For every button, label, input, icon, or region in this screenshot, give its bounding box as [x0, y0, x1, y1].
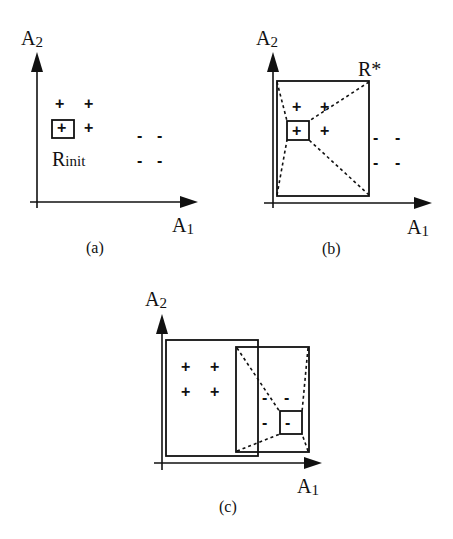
- x-axis-label-b: A1: [407, 216, 429, 239]
- figure: A2 A1 + + + + - - - - Rinit (a) A2 A1 R*…: [0, 0, 453, 539]
- y-axis-arrow-icon: [31, 52, 43, 72]
- expansion-line: [277, 140, 287, 195]
- negative-point: -: [285, 414, 290, 431]
- y-axis-arrow-icon: [267, 52, 279, 72]
- negative-point: -: [284, 389, 289, 406]
- positive-point: +: [292, 98, 301, 115]
- negative-point: -: [157, 127, 162, 144]
- x-axis-arrow-icon: [414, 197, 432, 209]
- expansion-line: [302, 434, 308, 451]
- y-axis-label-b: A2: [256, 27, 278, 50]
- negative-point: -: [373, 154, 378, 171]
- positive-point: +: [210, 383, 219, 400]
- positive-point: +: [210, 358, 219, 375]
- y-axis-label-a: A2: [21, 27, 43, 50]
- negative-point: -: [395, 154, 400, 171]
- positive-point: +: [84, 119, 93, 136]
- negative-point: -: [137, 152, 142, 169]
- expansion-line: [309, 82, 369, 121]
- positive-point: +: [292, 122, 301, 139]
- x-axis-arrow-icon: [180, 196, 198, 208]
- positive-point: +: [181, 358, 190, 375]
- x-axis-label-a: A1: [172, 214, 194, 237]
- positive-point: +: [84, 95, 93, 112]
- region-label-r-init: Rinit: [52, 148, 86, 170]
- y-axis-label-c: A2: [145, 288, 167, 311]
- region-label-r-star: R*: [358, 58, 381, 80]
- positive-point: +: [181, 383, 190, 400]
- region-seed: [280, 411, 302, 434]
- negative-point: -: [157, 152, 162, 169]
- negative-point: -: [373, 129, 378, 146]
- panel-c: A2 A1 + + + + - - - - (c): [145, 288, 322, 516]
- positive-point: +: [320, 98, 329, 115]
- negative-point: -: [262, 389, 267, 406]
- x-axis-label-c: A1: [297, 475, 319, 498]
- negative-point: -: [395, 129, 400, 146]
- y-axis-arrow-icon: [156, 314, 168, 334]
- negative-point: -: [137, 127, 142, 144]
- expansion-line: [302, 348, 308, 412]
- positive-point: +: [57, 119, 66, 136]
- caption-c: (c): [219, 498, 237, 516]
- expansion-line: [309, 140, 369, 195]
- caption-a: (a): [86, 239, 104, 257]
- panel-a: A2 A1 + + + + - - - - Rinit (a): [21, 27, 198, 257]
- expansion-line: [277, 82, 287, 121]
- positive-point: +: [55, 95, 64, 112]
- x-axis-arrow-icon: [304, 457, 322, 469]
- positive-point: +: [320, 122, 329, 139]
- caption-b: (b): [322, 240, 341, 258]
- panel-b: A2 A1 R* + + + + - - - - (b): [256, 27, 432, 258]
- negative-point: -: [262, 414, 267, 431]
